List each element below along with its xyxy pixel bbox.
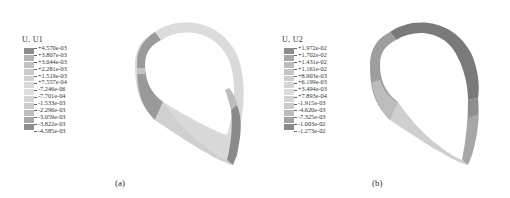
legend-swatch <box>284 117 294 124</box>
legend-swatch <box>284 82 294 89</box>
legend-swatch <box>24 69 34 76</box>
legend-swatch <box>24 124 34 131</box>
color-bar <box>24 48 34 131</box>
legend-swatch <box>284 55 294 62</box>
ring-u1-contour <box>125 10 255 180</box>
legend-swatch <box>24 62 34 69</box>
legend-title: U, U2 <box>282 35 303 44</box>
legend-swatch <box>284 48 294 55</box>
ring-u2-contour <box>360 10 490 180</box>
legend-labels: +1.972e-02+1.702e-02+1.431e-02+1.161e-02… <box>294 45 327 135</box>
legend-value: -1.273e-02 <box>294 128 327 135</box>
legend-swatch <box>24 76 34 83</box>
legend-swatch <box>284 69 294 76</box>
legend-swatch <box>284 103 294 110</box>
color-bar <box>284 48 294 131</box>
legend-swatch <box>284 110 294 117</box>
legend-swatch <box>24 89 34 96</box>
caption-b: (b) <box>372 178 383 188</box>
legend-swatch <box>24 103 34 110</box>
legend-swatch <box>284 89 294 96</box>
panel-b: U, U2 +1.972e-02+1.702e-02+1.431e-02+1.1… <box>260 0 510 198</box>
panel-a: U, U1 +4.570e-03+3.807e-03+3.044e-03+2.2… <box>0 0 260 198</box>
legend-swatch <box>284 124 294 131</box>
legend-swatch <box>24 96 34 103</box>
caption-a: (a) <box>115 178 125 188</box>
legend-swatch <box>24 55 34 62</box>
legend-value: -4.585e-03 <box>34 128 67 135</box>
legend-swatch <box>24 48 34 55</box>
legend-swatch <box>284 62 294 69</box>
legend-swatch <box>24 110 34 117</box>
legend-swatch <box>284 96 294 103</box>
legend-swatch <box>24 82 34 89</box>
legend-swatch <box>24 117 34 124</box>
legend-swatch <box>284 76 294 83</box>
legend-labels: +4.570e-03+3.807e-03+3.044e-03+2.281e-03… <box>34 45 67 135</box>
legend-title: U, U1 <box>22 35 43 44</box>
